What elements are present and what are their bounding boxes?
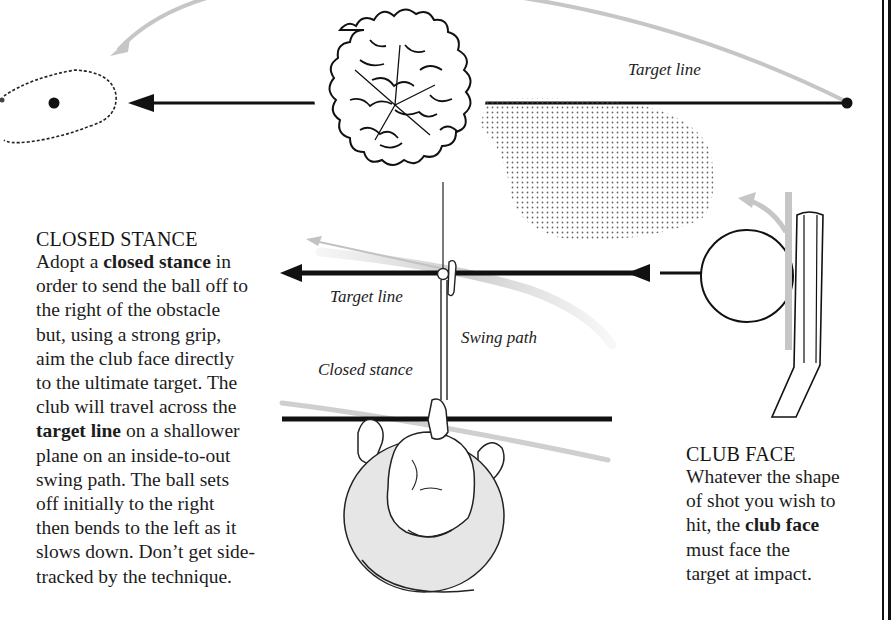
club-shaft xyxy=(438,261,457,400)
target-line-label-middle: Target line xyxy=(330,287,403,307)
club-face-guide xyxy=(785,192,792,350)
hole-icon xyxy=(49,98,60,109)
swing-path-label: Swing path xyxy=(461,328,537,348)
closed-stance-label: Closed stance xyxy=(318,360,413,380)
club-face-heading: CLUB FACE xyxy=(686,443,866,465)
green-with-hole xyxy=(0,70,116,143)
tree-shadow xyxy=(477,98,714,239)
arrowhead-left-icon xyxy=(128,94,154,112)
spin-arrow-icon xyxy=(738,192,756,208)
swing-arrowhead-icon xyxy=(306,236,322,246)
flight-arrowhead-icon xyxy=(110,38,130,56)
target-line-label-top: Target line xyxy=(628,60,701,80)
golf-instruction-page: Target line Target line Swing path Close… xyxy=(0,0,895,620)
arrowhead-left-icon xyxy=(627,264,650,282)
club-face-caption: CLUB FACE Whatever the shapeof shot you … xyxy=(686,443,866,586)
golfer-icon xyxy=(344,399,504,592)
tree-icon xyxy=(314,7,486,179)
page-border-rule xyxy=(888,0,891,620)
closed-stance-heading: CLOSED STANCE xyxy=(36,228,286,250)
club-face-body: Whatever the shapeof shot you wish tohit… xyxy=(686,465,866,586)
page-border-rule xyxy=(882,0,884,620)
closed-stance-caption: CLOSED STANCE Adopt a closed stance inor… xyxy=(36,228,286,589)
closed-stance-body: Adopt a closed stance inorder to send th… xyxy=(36,250,286,589)
ball-position-icon xyxy=(842,98,853,109)
ball-icon xyxy=(701,230,793,322)
